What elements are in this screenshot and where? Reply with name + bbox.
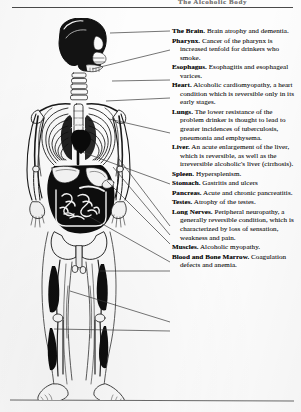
annotation-heart: Heart. Alcoholic cardiomyopathy, a heart…: [172, 81, 298, 107]
annotation-description: An acute enlargement of the liver, which…: [180, 143, 293, 168]
annotation-pharynx: Pharynx. Cancer of the pharynx is increa…: [172, 37, 298, 63]
annotation-term: The Brain.: [172, 27, 205, 35]
annotation-description: Brain atrophy and dementia.: [207, 27, 289, 35]
annotation-term: Lungs.: [172, 108, 193, 116]
annotation-muscles: Muscles. Alcoholic myopathy.: [172, 243, 298, 252]
annotation-description: Gastritis and ulcers: [202, 179, 258, 187]
annotation-description: Acute and chronic pancreatitis.: [203, 189, 292, 197]
annotation-term: Long Nerves.: [172, 208, 213, 216]
annotation-term: Liver.: [172, 143, 190, 151]
annotation-term: Esophagus.: [172, 63, 207, 71]
annotation-term: Muscles.: [172, 243, 199, 251]
annotation-term: Spleen.: [172, 170, 194, 178]
annotation-stomach: Stomach. Gastritis and ulcers: [172, 179, 298, 188]
skeleton-anatomy-figure: [8, 18, 148, 400]
annotation-term: Stomach.: [172, 179, 201, 187]
annotation-list: The Brain. Brain atrophy and dementia. P…: [172, 27, 298, 271]
annotation-lungs: Lungs. The lower resistance of the probl…: [172, 108, 298, 142]
scanned-page: The Alcoholic Body: [0, 0, 301, 412]
annotation-pancreas: Pancreas. Acute and chronic pancreatitis…: [172, 189, 298, 198]
annotation-liver: Liver. An acute enlargement of the liver…: [172, 143, 298, 169]
annotation-brain: The Brain. Brain atrophy and dementia.: [172, 27, 298, 36]
annotation-term: Pharynx.: [172, 37, 200, 45]
annotation-spleen: Spleen. Hypersplenism.: [172, 170, 298, 179]
annotation-description: Hypersplenism.: [196, 170, 241, 178]
annotation-description: Alcoholic cardiomyopathy, a heart condit…: [180, 81, 294, 106]
annotation-term: Blood and Bone Marrow.: [172, 253, 249, 261]
annotation-description: Alcoholic myopathy.: [200, 243, 260, 251]
annotation-term: Heart.: [172, 81, 192, 89]
annotation-description: Atrophy of the testes.: [194, 198, 256, 206]
annotation-testes: Testes. Atrophy of the testes.: [172, 198, 298, 207]
annotation-description: The lower resistance of the problem drin…: [180, 108, 286, 142]
annotation-term: Testes.: [172, 198, 192, 206]
header-divider-rule: [12, 7, 293, 8]
page-header-text: The Alcoholic Body: [130, 0, 295, 6]
annotation-esophagus: Esophagus. Esophagitis and esophageal va…: [172, 63, 298, 80]
annotation-long-nerves: Long Nerves. Peripheral neuropathy, a ge…: [172, 208, 298, 242]
annotation-blood-bone-marrow: Blood and Bone Marrow. Coagulation defec…: [172, 253, 298, 270]
annotation-term: Pancreas.: [172, 189, 202, 197]
